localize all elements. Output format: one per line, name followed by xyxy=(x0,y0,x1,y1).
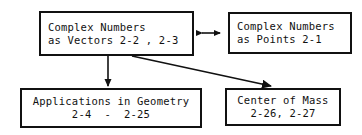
node-applications-line1: Applications in Geometry xyxy=(33,95,190,108)
node-complex-numbers-as-vectors[interactable]: Complex Numbers as Vectors 2-2 , 2-3 xyxy=(39,11,194,56)
node-points-line1: Complex Numbers xyxy=(237,20,335,33)
node-points-line2: as Points 2-1 xyxy=(237,33,322,46)
node-center-of-mass[interactable]: Center of Mass 2-26, 2-27 xyxy=(225,88,341,126)
flowchart-diagram: Complex Numbers as Vectors 2-2 , 2-3 Com… xyxy=(0,0,362,135)
node-complex-numbers-as-points[interactable]: Complex Numbers as Points 2-1 xyxy=(228,12,352,54)
connector-vectors-center-mass xyxy=(132,56,271,86)
node-vectors-line1: Complex Numbers xyxy=(48,21,146,34)
node-center-mass-line2: 2-26, 2-27 xyxy=(250,107,315,120)
node-vectors-line2: as Vectors 2-2 , 2-3 xyxy=(48,34,178,47)
node-applications-line2: 2-4 - 2-25 xyxy=(72,108,150,121)
node-center-mass-line1: Center of Mass xyxy=(237,94,328,107)
node-applications-in-geometry[interactable]: Applications in Geometry 2-4 - 2-25 xyxy=(20,88,202,128)
